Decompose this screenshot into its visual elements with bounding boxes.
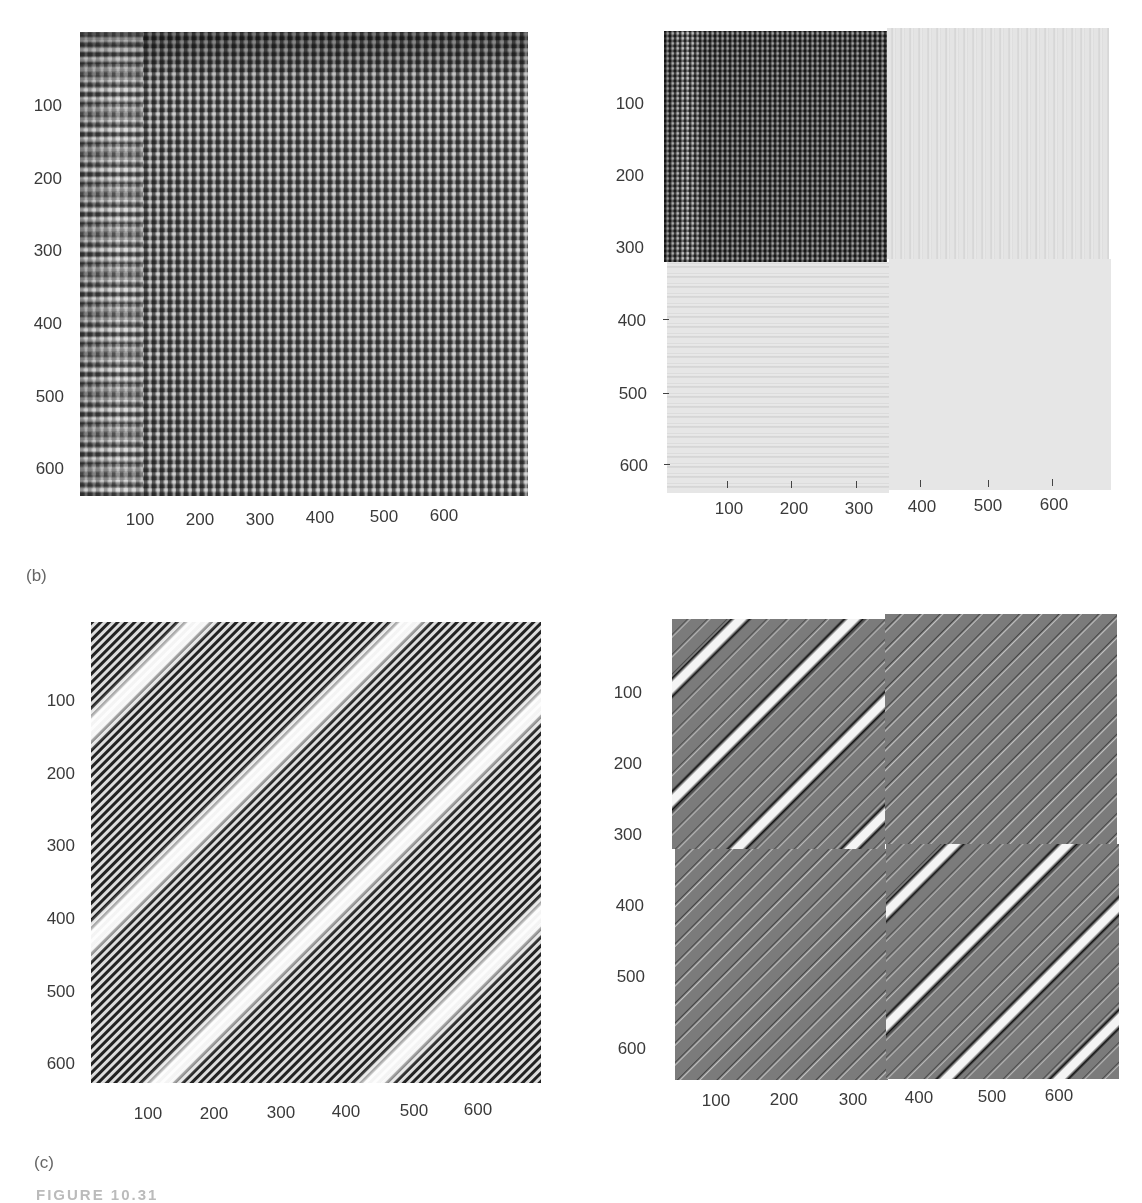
y-tick-label: 400 [27,909,75,929]
x-tick-label: 300 [236,510,284,530]
x-tick-label: 600 [420,506,468,526]
x-tick-label: 100 [116,510,164,530]
y-tick-label: 200 [596,166,644,186]
heatmap-c-left [91,622,541,1083]
heatmap-c-right-block-11 [672,619,885,849]
y-tick-label: 400 [14,314,62,334]
y-tick-label: 100 [594,683,642,703]
x-tick-label: 600 [454,1100,502,1120]
y-tick-label: 600 [600,456,648,476]
y-tick-label: 300 [14,241,62,261]
heatmap-c-right-block-21 [675,849,888,1080]
x-tick-label: 600 [1030,495,1078,515]
y-tick [663,319,669,320]
x-tick [791,481,792,488]
y-tick-label: 100 [596,94,644,114]
x-tick-label: 100 [692,1091,740,1111]
y-tick-label: 300 [27,836,75,856]
y-tick-label: 500 [599,384,647,404]
y-tick-label: 200 [27,764,75,784]
heatmap-b-right-block-22 [889,259,1111,490]
x-tick-label: 200 [770,499,818,519]
y-tick-label: 100 [27,691,75,711]
heatmap-b-right-block-12 [887,28,1109,259]
x-tick-label: 400 [898,497,946,517]
y-tick-label: 500 [16,387,64,407]
heatmap-b-right-block-11 [664,31,887,262]
x-tick-label: 400 [322,1102,370,1122]
x-tick-label: 500 [390,1101,438,1121]
y-tick-label: 600 [27,1054,75,1074]
y-tick-label: 500 [27,982,75,1002]
x-tick-label: 300 [257,1103,305,1123]
y-tick-label: 200 [594,754,642,774]
x-tick-label: 200 [760,1090,808,1110]
panel-label-c: (c) [34,1153,54,1173]
x-tick [1052,479,1053,486]
y-tick-label: 200 [14,169,62,189]
y-tick-label: 500 [597,967,645,987]
y-tick-label: 300 [596,238,644,258]
x-tick-label: 400 [296,508,344,528]
figure-caption: FIGURE 10.31 [36,1186,158,1203]
heatmap-b-right-block-21 [667,262,889,493]
x-tick-label: 500 [968,1087,1016,1107]
x-tick-label: 500 [964,496,1012,516]
x-tick-label: 200 [190,1104,238,1124]
y-tick-label: 400 [596,896,644,916]
x-tick-label: 100 [705,499,753,519]
x-tick-label: 300 [835,499,883,519]
x-tick-label: 600 [1035,1086,1083,1106]
y-tick-label: 100 [14,96,62,116]
y-tick [663,393,669,394]
heatmap-b-left [80,32,528,496]
x-tick [727,481,728,488]
x-tick [988,480,989,487]
x-tick-label: 500 [360,507,408,527]
x-tick [856,481,857,488]
heatmap-c-right-block-12 [885,614,1117,844]
y-tick [664,464,670,465]
y-tick-label: 600 [598,1039,646,1059]
x-tick-label: 200 [176,510,224,530]
x-tick [920,480,921,487]
x-tick-label: 400 [895,1088,943,1108]
y-tick-label: 300 [594,825,642,845]
y-tick-label: 600 [16,459,64,479]
panel-label-b: (b) [26,566,47,586]
y-tick-label: 400 [598,311,646,331]
x-tick-label: 300 [829,1090,877,1110]
x-tick-label: 100 [124,1104,172,1124]
heatmap-c-right-block-22 [886,844,1119,1079]
